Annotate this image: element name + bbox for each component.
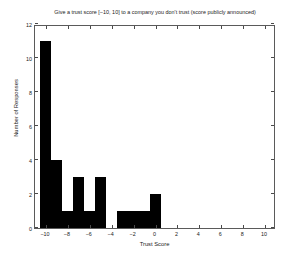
- x-tick-top: [199, 26, 200, 29]
- bars-layer: [35, 26, 274, 228]
- x-tick-label: −6: [79, 231, 99, 237]
- y-tick-right: [271, 193, 274, 194]
- x-tick-label: −2: [123, 231, 143, 237]
- bar: [150, 194, 161, 228]
- x-tick: [46, 225, 47, 228]
- y-tick-label: 0: [20, 226, 32, 232]
- x-tick: [243, 225, 244, 228]
- y-tick-right: [271, 23, 274, 24]
- x-tick-top: [112, 26, 113, 29]
- y-tick: [35, 227, 38, 228]
- y-tick-right: [271, 57, 274, 58]
- y-tick-label: 8: [20, 90, 32, 96]
- y-tick-label: 4: [20, 158, 32, 164]
- x-tick: [112, 225, 113, 228]
- x-tick-top: [134, 26, 135, 29]
- y-tick-label: 6: [20, 124, 32, 130]
- x-tick: [177, 225, 178, 228]
- y-axis-title: Number of Responses: [13, 53, 19, 163]
- x-tick-top: [156, 26, 157, 29]
- x-tick: [134, 225, 135, 228]
- y-tick: [35, 159, 38, 160]
- bar: [51, 160, 62, 228]
- y-tick-label: 12: [20, 22, 32, 28]
- bar: [139, 211, 150, 228]
- y-tick-right: [271, 125, 274, 126]
- x-tick: [90, 225, 91, 228]
- x-tick-label: 4: [188, 231, 208, 237]
- y-tick: [35, 23, 38, 24]
- x-axis-title: Trust Score: [34, 241, 275, 247]
- y-tick-label: 2: [20, 192, 32, 198]
- x-tick-top: [68, 26, 69, 29]
- x-tick: [68, 225, 69, 228]
- x-tick-top: [265, 26, 266, 29]
- y-tick: [35, 125, 38, 126]
- x-tick-label: −4: [101, 231, 121, 237]
- y-tick-label: 10: [20, 56, 32, 62]
- y-tick-right: [271, 159, 274, 160]
- x-tick-label: 0: [145, 231, 165, 237]
- plot-area: [34, 25, 275, 229]
- y-tick-right: [271, 227, 274, 228]
- x-tick-label: 10: [254, 231, 274, 237]
- x-tick: [221, 225, 222, 228]
- x-tick-top: [177, 26, 178, 29]
- figure-canvas: Give a trust score [−10, 10] to a compan…: [0, 0, 287, 261]
- y-tick: [35, 57, 38, 58]
- y-tick: [35, 91, 38, 92]
- x-tick: [265, 225, 266, 228]
- bar: [117, 211, 128, 228]
- bar: [40, 41, 51, 228]
- x-tick-label: 2: [166, 231, 186, 237]
- x-tick-top: [90, 26, 91, 29]
- x-tick-top: [46, 26, 47, 29]
- x-tick-label: −8: [57, 231, 77, 237]
- x-tick-label: 8: [232, 231, 252, 237]
- y-tick-right: [271, 91, 274, 92]
- x-tick: [156, 225, 157, 228]
- x-tick-label: 6: [210, 231, 230, 237]
- y-tick: [35, 193, 38, 194]
- x-tick-top: [243, 26, 244, 29]
- bar: [95, 177, 106, 228]
- x-tick-label: −10: [35, 231, 55, 237]
- bar: [73, 177, 84, 228]
- x-tick: [199, 225, 200, 228]
- chart-title: Give a trust score [−10, 10] to a compan…: [34, 9, 276, 16]
- x-tick-top: [221, 26, 222, 29]
